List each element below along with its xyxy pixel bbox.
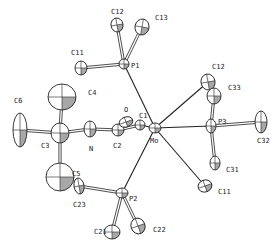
atom-label-p3: P3 [218,118,226,126]
atom-label-c2: C2 [113,142,121,150]
atom-label-c12b: C12 [212,63,225,71]
atom-label-mo: Mo [150,137,158,145]
atom-c11-ellipsoid [75,61,87,75]
atom-c23-ellipsoid [73,177,86,194]
atom-label-n: N [89,145,93,153]
atoms-layer [13,17,267,239]
bond-p1-c11 [81,63,124,67]
atom-c13-ellipsoid [134,18,151,36]
atom-label-c5: C5 [72,170,80,178]
atom-c11-ellipsoid [196,178,213,194]
bond-mo-c11 [155,128,205,186]
atom-p2-ellipsoid [116,188,128,198]
atom-label-c33: C33 [228,84,241,92]
atom-c31-ellipsoid [210,156,220,170]
atom-label-c12a: C12 [111,8,124,16]
bond-mo-p3 [155,126,211,128]
atom-c32-ellipsoid [255,111,267,133]
atom-p1-ellipsoid [119,59,129,69]
atom-p3-ellipsoid [206,119,216,133]
atom-c22-ellipsoid [129,216,148,236]
atom-c5-ellipsoid [46,163,74,191]
atom-c4-ellipsoid [48,84,76,110]
atom-label-c1: C1 [139,112,147,120]
atom-label-c32: C32 [257,137,270,145]
bond-mo-c12 [155,82,208,128]
atom-label-c11a: C11 [71,49,84,57]
atom-label-c4: C4 [88,89,96,97]
atom-label-c11b: C11 [218,188,231,196]
atom-label-c3: C3 [41,142,49,150]
molecular-structure-diagram: MoP1P2P3C12C13C11C4C6C3NC2OC1C5C23C21C22… [0,0,280,248]
atom-label-c6: C6 [14,97,22,105]
atom-label-c22: C22 [153,226,166,234]
atom-label-c13: C13 [155,14,168,22]
atom-label-o: O [124,106,128,114]
atom-c6-ellipsoid [13,113,27,147]
atom-label-c23: C23 [73,201,86,209]
atom-c33-ellipsoid [207,88,221,104]
atom-c3-ellipsoid [51,123,69,143]
atom-label-p1: P1 [131,62,139,70]
atom-label-p2: P2 [129,195,137,203]
atom-n-ellipsoid [84,121,96,137]
bond-p1-c11 [81,65,124,69]
atom-c1-ellipsoid [135,120,145,130]
atom-label-c31: C31 [226,166,239,174]
atom-mo-ellipsoid [149,123,161,133]
atom-label-c21: C21 [94,228,107,236]
atom-c12-ellipsoid [110,17,124,33]
